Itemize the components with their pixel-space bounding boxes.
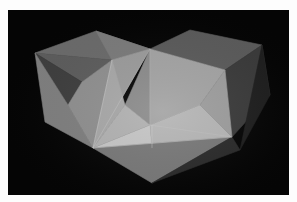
lighting-overlay — [8, 10, 289, 195]
polyhedron-photo: Photograph of a gray polyhedral paper mo… — [8, 10, 289, 195]
polyhedron-model-image — [8, 10, 289, 195]
photo-frame: Photograph of a gray polyhedral paper mo… — [0, 0, 297, 202]
